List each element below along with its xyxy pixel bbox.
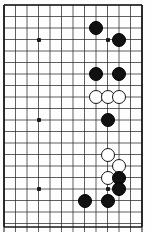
star-point (106, 38, 110, 42)
star-point (37, 38, 41, 42)
go-board-grid[interactable] (0, 0, 152, 232)
go-board-container[interactable] (0, 0, 152, 232)
star-point (106, 187, 110, 191)
black-stone[interactable] (112, 67, 126, 81)
board-background (0, 0, 152, 232)
black-stone[interactable] (112, 33, 126, 47)
star-point (37, 118, 41, 122)
black-stone[interactable] (89, 67, 103, 81)
black-stone[interactable] (89, 21, 103, 35)
black-stone[interactable] (101, 113, 115, 127)
black-stone[interactable] (101, 194, 115, 208)
black-stone[interactable] (112, 182, 126, 196)
white-stone[interactable] (101, 148, 115, 162)
black-stone[interactable] (78, 194, 92, 208)
white-stone[interactable] (112, 90, 126, 104)
star-point (37, 187, 41, 191)
